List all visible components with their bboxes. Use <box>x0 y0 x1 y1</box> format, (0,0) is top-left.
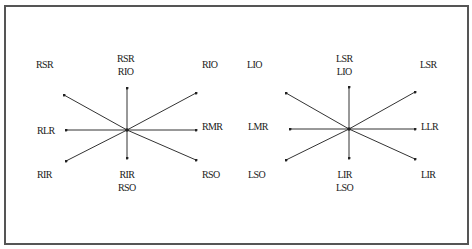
label-left-bottom-center: LIR LSO <box>336 168 353 194</box>
label-left-bottom-left: LSO <box>248 168 265 181</box>
arrow-up-right <box>349 92 415 129</box>
label-right-bottom-left: RIR <box>37 168 52 181</box>
right-eye-arrows <box>64 88 196 161</box>
label-right-top-right: RIO <box>202 58 217 71</box>
gaze-direction-diagrams <box>0 0 472 249</box>
label-line: LIR <box>336 168 353 181</box>
label-right-bottom-right: RSO <box>202 168 220 181</box>
label-line: RSR <box>117 52 134 65</box>
label-line: RSO <box>118 181 136 194</box>
label-right-middle-right: RMR <box>202 120 222 133</box>
label-line: RIO <box>117 65 134 78</box>
right-eye-center-dot <box>125 128 129 132</box>
label-right-top-left: RSR <box>36 58 53 71</box>
label-left-top-center: LSR LIO <box>336 52 353 78</box>
label-line: RIR <box>118 168 136 181</box>
label-line: LSO <box>336 181 353 194</box>
arrow-up-left <box>286 93 349 129</box>
label-line: LIO <box>336 65 353 78</box>
label-right-middle-left: RLR <box>37 124 55 137</box>
label-left-middle-left: LMR <box>248 120 268 133</box>
arrow-down-right <box>349 129 415 159</box>
left-eye-center-dot <box>347 127 351 131</box>
label-right-bottom-center: RIR RSO <box>118 168 136 194</box>
arrow-down-left <box>66 130 127 161</box>
left-eye-arrows <box>286 87 415 160</box>
label-left-top-left: LIO <box>247 58 262 71</box>
arrow-up-right <box>127 93 196 130</box>
label-left-bottom-right: LIR <box>421 168 435 181</box>
label-right-top-center: RSR RIO <box>117 52 134 78</box>
label-left-top-right: LSR <box>420 58 437 71</box>
label-left-middle-right: LLR <box>421 120 438 133</box>
label-line: LSR <box>336 52 353 65</box>
arrow-down-right <box>127 130 196 160</box>
arrow-down-left <box>286 129 349 160</box>
arrow-up-left <box>64 95 127 130</box>
